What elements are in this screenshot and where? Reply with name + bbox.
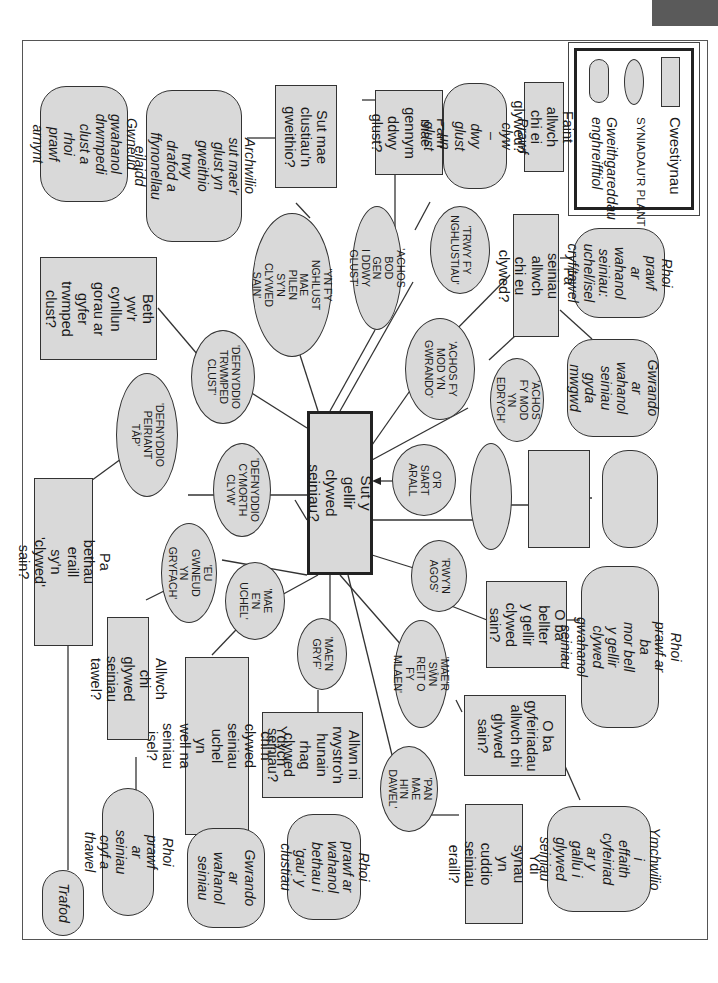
activity-trafod: Trafod <box>42 870 84 936</box>
activity-archwilio: Archwilio sut mae'r glust yn gweithio tr… <box>146 90 242 242</box>
activity-ymchwilio: Ymchwilio i effaith cyfeiriad ar y gallu… <box>547 806 651 912</box>
idea-defnyddio-peiriant: 'DEFNYDDIO PEIRIANT TÂP' <box>116 373 178 497</box>
idea-maen-gryf: 'MAE'N GRYF' <box>297 618 347 690</box>
question-allwch-chi-glywed: Allwch chi glywed seiniau tawel? <box>107 617 149 740</box>
idea-blank <box>470 443 512 550</box>
legend-idea-swatch <box>624 59 644 105</box>
question-o-ba-bellter: O ba bellter y gellir clywed sain? <box>486 581 567 668</box>
idea-maer-swn: 'MAE'R SŴN REIT O FY MLAEN' <box>394 620 448 728</box>
idea-trwy-fy-nghlustiau: 'TRWY FY NGHLUSTIAU' <box>430 206 490 294</box>
legend: Cwestiynau SYNIADAU'R PLANT Gweithgaredd… <box>568 42 700 216</box>
legend-idea-label: SYNIADAU'R PLANT <box>634 117 647 227</box>
question-sut-mae: Sut mae clustiau'n gweithio? <box>275 85 337 188</box>
question-ydi-synau: Ydi synau yn cuddio seiniau eraill? <box>465 804 523 924</box>
question-beth-ywr: Beth yw'r cynllun gorau ar gyfer trwmped… <box>40 257 157 360</box>
activity-rhoi-pa-mor-bell: Rhoi prawf ar ba mor bell y gellir clywe… <box>581 566 659 728</box>
activity-gwrando-wahanol: Gwrando ar wahanol seiniau <box>187 828 265 928</box>
central-question: Sut y gellir clywed seiniau? <box>307 411 373 575</box>
legend-question-label: Cwestiynau <box>667 117 684 195</box>
legend-activity-label: Gweithgareddau enghreifftiol <box>588 117 619 220</box>
idea-defnyddio-trwmped: 'DEFNYDDIO TRWMPED CLUST' <box>191 330 255 424</box>
legend-question-swatch <box>661 57 680 107</box>
idea-rwyn-agos: 'RWY'N AGOS' <box>411 540 467 612</box>
question-pa-bethau: Pa bethau eraill sy'n 'clywed' sain? <box>34 478 93 646</box>
activity-gwrando-mwgwd: Gwrando ar wahanol seiniau gyda mwgwd <box>567 339 659 437</box>
idea-eu-gwneud: 'EU GWNEUD YN GRYFACH' <box>161 523 217 623</box>
question-o-ba-gyfeiriadau: O ba gyfeiriadau allwch chi glywed sain? <box>464 695 566 776</box>
question-pa-seiniau: Pa seiniau allwch chi eu clywed? <box>513 214 559 337</box>
idea-or-siart-arall: O'R SIART ARALL <box>392 444 456 516</box>
legend-activity-swatch <box>589 59 609 103</box>
activity-rhoi-uchel-isel: Rhoi prawf ar wahanol seiniau: uchel/ise… <box>573 228 665 318</box>
idea-achos-bod-gen: 'ACHOS BOD GEN I DDWY GLUST' <box>352 206 402 330</box>
activity-rhoi-gau: Rhoi prawf ar wahanol bethau i 'gau' y c… <box>287 814 361 920</box>
idea-achos-edrych: 'ACHOS FY MOD YN EDRYCH' <box>490 358 544 442</box>
idea-mae-en-uchel: 'MAE E'N UCHEL' <box>225 562 285 640</box>
activity-gwneud: Gwneud gwahanol drwmpedi clust a rhoi pr… <box>40 86 128 202</box>
question-blank <box>528 450 590 548</box>
idea-achos-gwrando: 'ACHOS FY MOD YN GWRANDO' <box>405 318 475 420</box>
activity-prawf-clyw: Prawf clyw – dwy glust – un glust <box>443 83 507 189</box>
idea-defnyddio-cymorth: 'DEFNYDDIO CYMORTH CLYW' <box>213 443 271 537</box>
question-ydych-chi: Ydych chi'n clywed seiniau uchel yn well… <box>185 657 249 835</box>
idea-pan-mae: 'PAN MAE HI'N DAWEL' <box>380 746 438 832</box>
idea-yn-fy-nghlust: 'YN FY NGHLUST MAE PILEN SY'N CLYWED SAI… <box>252 213 332 357</box>
activity-rhoi-cryf-tawel: Rhoi prawf ar seiniau cryf a thawel <box>102 788 154 916</box>
activity-blank <box>602 450 658 548</box>
